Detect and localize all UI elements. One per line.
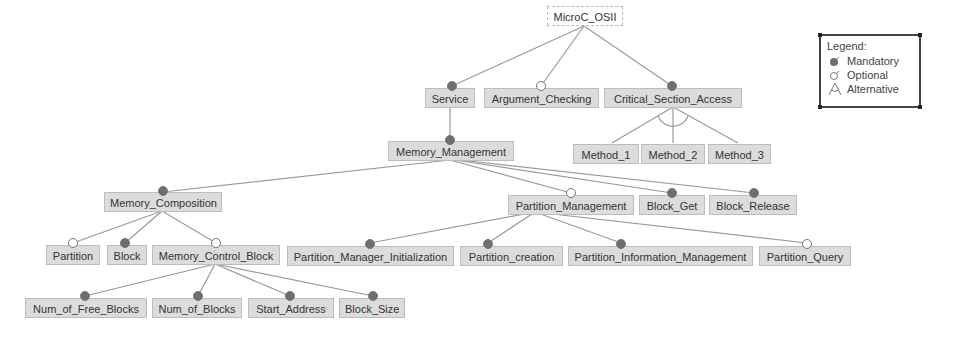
node-critical-section-access[interactable]: Critical_Section_Access [604,88,742,108]
node-method-1[interactable]: Method_1 [573,144,639,164]
edge-mc-partition [73,211,162,243]
edge-csa-method1 [612,107,673,143]
node-memory-management[interactable]: Memory_Management [388,141,514,161]
edge-mcb-num-blocks [198,264,215,296]
node-block[interactable]: Block [107,245,147,265]
node-partition-manager-initialization[interactable]: Partition_Manager_Initialization [287,246,454,266]
edge-mm-partition-management [450,160,571,193]
node-method-2[interactable]: Method_2 [641,144,705,164]
edge-mm-block-get [455,160,672,193]
edges-layer [0,0,957,338]
optional-icon [827,68,843,82]
mandatory-icon [827,54,843,68]
legend-item-alternative: Alternative [827,82,913,96]
node-method-3[interactable]: Method_3 [708,144,771,164]
edge-mc-block [125,211,162,243]
edge-csa-method3 [673,107,738,143]
legend-title: Legend: [827,40,913,54]
node-service[interactable]: Service [425,88,475,108]
edge-pm-init [370,212,535,243]
node-block-get[interactable]: Block_Get [639,195,705,215]
node-num-of-free-blocks[interactable]: Num_of_Free_Blocks [25,298,147,318]
node-argument-checking[interactable]: Argument_Checking [484,88,599,108]
edge-pm-query [535,212,807,243]
feature-model-diagram: MicroC_OSII Service Argument_Checking Cr… [0,0,957,338]
node-partition-information-management[interactable]: Partition_Information_Management [568,246,753,266]
edge-root-service [452,26,584,86]
alternative-icon [827,82,843,96]
edge-mcb-start-address [215,264,290,296]
node-partition-management[interactable]: Partition_Management [508,195,634,215]
node-block-release[interactable]: Block_Release [709,195,797,215]
node-partition-creation[interactable]: Partition_creation [460,246,563,266]
edge-mc-memory-control-block [162,211,216,243]
node-start-address[interactable]: Start_Address [248,298,334,318]
node-root[interactable]: MicroC_OSII [547,6,623,26]
legend-item-mandatory: Mandatory [827,54,913,68]
node-partition[interactable]: Partition [46,245,100,265]
node-partition-query[interactable]: Partition_Query [759,246,851,266]
edge-root-argument-checking [541,26,584,86]
edge-mcb-free-blocks [85,264,215,296]
edge-mm-memory-composition [163,160,450,192]
legend-item-optional: Optional [827,68,913,82]
edge-root-critical-section [584,26,672,86]
node-memory-composition[interactable]: Memory_Composition [104,192,222,212]
node-memory-control-block[interactable]: Memory_Control_Block [152,245,280,265]
edge-mcb-block-size [215,264,373,296]
node-num-of-blocks[interactable]: Num_of_Blocks [152,298,242,318]
node-block-size[interactable]: Block_Size [339,298,405,318]
legend: Legend: Mandatory Optional Alternative [819,34,921,108]
